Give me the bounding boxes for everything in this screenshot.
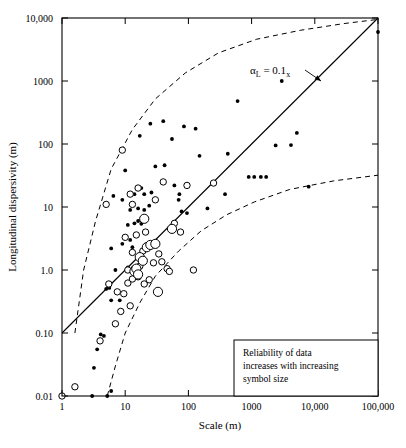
data-point bbox=[170, 137, 174, 141]
y-tick-label-3: 10 bbox=[43, 202, 53, 213]
data-point bbox=[129, 249, 135, 255]
data-point bbox=[127, 303, 133, 309]
data-point bbox=[102, 334, 106, 338]
data-point bbox=[180, 210, 184, 214]
data-point bbox=[138, 134, 142, 138]
data-point bbox=[119, 147, 125, 153]
data-point bbox=[172, 184, 176, 188]
data-point bbox=[150, 260, 156, 266]
data-point bbox=[133, 221, 137, 225]
x-axis-tick-labels: 110100100010,000100,000 bbox=[60, 401, 395, 412]
data-point bbox=[167, 224, 176, 233]
data-point bbox=[206, 207, 210, 211]
data-point bbox=[95, 347, 99, 351]
data-point bbox=[136, 207, 140, 211]
data-point bbox=[150, 191, 154, 195]
alpha-x-subscript: x bbox=[286, 70, 290, 79]
data-point bbox=[97, 338, 103, 344]
data-point bbox=[247, 175, 251, 179]
data-point bbox=[182, 125, 186, 129]
data-point bbox=[177, 192, 181, 196]
y-tick-label-2: 1.0 bbox=[41, 265, 54, 276]
alpha-equals: = 0.1 bbox=[261, 64, 286, 76]
data-point bbox=[142, 192, 146, 196]
legend-line-3: symbol size bbox=[243, 374, 288, 384]
data-point bbox=[166, 268, 172, 274]
data-point bbox=[307, 185, 311, 189]
data-point bbox=[236, 99, 240, 103]
y-axis-title: Longitudinal dispersivity (m) bbox=[6, 142, 19, 272]
data-point bbox=[118, 298, 122, 302]
data-point bbox=[128, 238, 132, 242]
data-point bbox=[161, 119, 165, 123]
data-point bbox=[274, 144, 278, 148]
data-point bbox=[259, 175, 263, 179]
data-point bbox=[121, 291, 127, 297]
data-point bbox=[184, 182, 190, 188]
dispersivity-scale-figure: 110100100010,000100,000 0.010.101.010100… bbox=[0, 0, 406, 448]
data-point bbox=[129, 201, 135, 207]
data-point bbox=[135, 185, 141, 191]
x-tick-label-5: 100,000 bbox=[362, 401, 395, 412]
data-point bbox=[147, 204, 151, 208]
data-point bbox=[122, 234, 128, 240]
data-point bbox=[153, 287, 162, 296]
data-point bbox=[114, 289, 120, 295]
data-point bbox=[109, 389, 113, 393]
data-point bbox=[112, 321, 118, 327]
x-tick-label-2: 100 bbox=[181, 401, 196, 412]
data-point bbox=[127, 191, 133, 197]
data-point bbox=[138, 256, 147, 265]
data-point bbox=[177, 198, 181, 202]
x-tick-label-1: 10 bbox=[120, 401, 130, 412]
data-point bbox=[103, 201, 109, 207]
data-point bbox=[226, 152, 230, 156]
data-point bbox=[295, 131, 299, 135]
data-point bbox=[289, 143, 293, 147]
data-point bbox=[72, 384, 78, 390]
plot-area-background bbox=[62, 18, 378, 396]
data-point bbox=[159, 259, 165, 265]
data-point bbox=[177, 229, 183, 235]
y-tick-label-1: 0.10 bbox=[36, 328, 54, 339]
data-point bbox=[126, 223, 130, 227]
data-point bbox=[280, 79, 284, 83]
data-point bbox=[133, 232, 139, 238]
data-point bbox=[114, 268, 118, 272]
data-point bbox=[146, 277, 152, 283]
data-point bbox=[128, 208, 132, 212]
data-point bbox=[151, 239, 160, 248]
x-tick-label-0: 1 bbox=[60, 401, 65, 412]
y-axis-tick-labels: 0.010.101.010100100010,000 bbox=[26, 13, 54, 402]
x-tick-label-3: 1000 bbox=[242, 401, 262, 412]
data-point bbox=[148, 122, 152, 126]
legend-line-1: Reliability of data bbox=[243, 348, 312, 358]
chart-canvas: 110100100010,000100,000 0.010.101.010100… bbox=[0, 0, 406, 448]
data-point bbox=[120, 198, 124, 202]
data-point bbox=[134, 270, 143, 279]
data-point bbox=[153, 165, 157, 169]
data-point bbox=[190, 267, 196, 273]
data-point bbox=[185, 211, 189, 215]
data-point bbox=[118, 308, 124, 314]
data-point bbox=[223, 192, 227, 196]
data-point bbox=[109, 247, 113, 251]
data-point bbox=[106, 281, 112, 287]
data-point bbox=[160, 179, 166, 185]
plot-background bbox=[62, 18, 378, 396]
data-point bbox=[140, 214, 149, 223]
y-tick-label-5: 1000 bbox=[33, 76, 53, 87]
data-point bbox=[142, 229, 148, 235]
data-point bbox=[109, 298, 113, 302]
y-tick-label-6: 10,000 bbox=[26, 13, 54, 24]
x-tick-label-4: 10,000 bbox=[301, 401, 329, 412]
legend-note-box: Reliability of data increases with incre… bbox=[234, 340, 378, 396]
data-point bbox=[210, 180, 216, 186]
data-point bbox=[252, 175, 256, 179]
data-point bbox=[163, 163, 167, 167]
data-point bbox=[194, 127, 198, 131]
data-point bbox=[123, 169, 127, 173]
data-point bbox=[142, 208, 146, 212]
data-point bbox=[120, 242, 124, 246]
y-tick-label-0: 0.01 bbox=[36, 391, 54, 402]
